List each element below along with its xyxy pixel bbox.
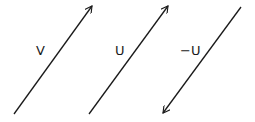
vector-neg-u-arrow (163, 7, 241, 113)
vector-neg-u: −U (163, 7, 241, 113)
vector-u-label: U (115, 43, 125, 58)
vector-v: V (14, 6, 92, 114)
vector-u-arrow (89, 6, 168, 114)
vector-v-arrow (14, 6, 92, 114)
vector-neg-u-label: −U (180, 43, 200, 58)
vector-diagram: V U −U (0, 0, 255, 122)
vector-v-label: V (36, 43, 45, 58)
vector-u: U (89, 6, 168, 114)
